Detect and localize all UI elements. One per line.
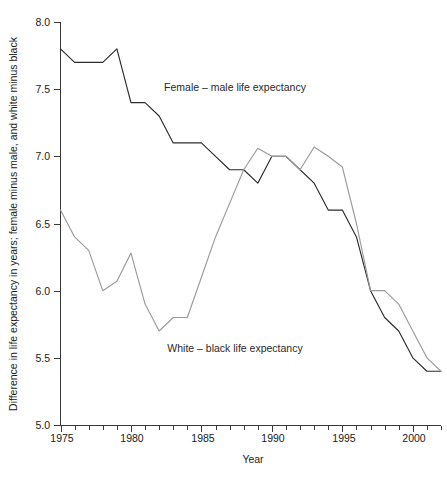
x-tick-label: 1975 <box>50 432 74 444</box>
y-tick-label: 7.0 <box>35 150 50 162</box>
x-axis-title: Year <box>242 453 264 465</box>
annotation-white-black: White – black life expectancy <box>167 342 303 354</box>
y-axis-title: Difference in life expectancy in years; … <box>7 36 19 411</box>
x-tick-label: 1980 <box>120 432 144 444</box>
x-axis-tick-labels: 1975 1980 1985 1990 1995 2000 <box>50 432 426 444</box>
x-axis-ticks <box>62 426 442 432</box>
y-tick-label: 7.5 <box>35 83 50 95</box>
x-tick-label: 2000 <box>402 432 426 444</box>
series-line-white-black <box>61 147 442 371</box>
y-axis-tick-labels: 8.0 7.5 7.0 6.5 6.0 5.5 5.0 <box>35 16 50 431</box>
x-tick-label: 1985 <box>191 432 215 444</box>
line-chart: 8.0 7.5 7.0 6.5 6.0 5.5 5.0 1975 1980 19… <box>0 0 447 483</box>
y-tick-label: 6.5 <box>35 218 50 230</box>
y-tick-label: 5.5 <box>35 352 50 364</box>
x-tick-label: 1995 <box>332 432 356 444</box>
series-line-female-male <box>61 49 442 371</box>
y-tick-label: 6.0 <box>35 285 50 297</box>
y-axis-ticks <box>54 23 61 426</box>
chart-figure: 8.0 7.5 7.0 6.5 6.0 5.5 5.0 1975 1980 19… <box>0 0 447 483</box>
x-tick-label: 1990 <box>261 432 285 444</box>
annotation-female-male: Female – male life expectancy <box>164 81 307 93</box>
y-tick-label: 8.0 <box>35 16 50 28</box>
y-tick-label: 5.0 <box>35 419 50 431</box>
